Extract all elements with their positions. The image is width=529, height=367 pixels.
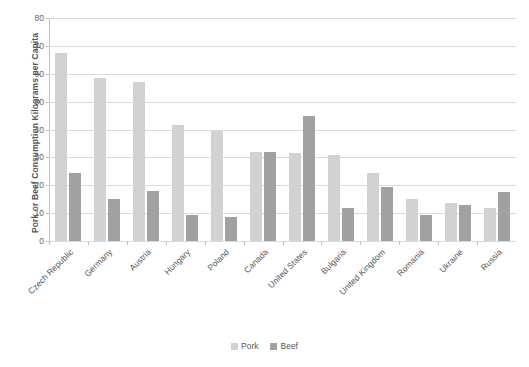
bar-beef[interactable] [225,217,237,241]
bar-beef[interactable] [303,116,315,241]
x-axis-label: Russia [478,247,503,272]
y-tick-label: 40 [35,125,44,135]
x-axis-label: Poland [205,247,231,273]
y-tick-label: 20 [35,180,44,190]
x-axis-label-cell: Russia [477,245,516,335]
bar-beef[interactable] [186,215,198,241]
y-tick-label: 50 [35,97,44,107]
x-axis-label: Bulgaria [319,247,348,276]
legend-label: Pork [241,341,258,351]
bar-group [49,18,88,241]
bar-group [438,18,477,241]
x-axis-label-cell: Austria [127,245,166,335]
y-tick-label: 70 [35,41,44,51]
bar-group [166,18,205,241]
y-tick-label: 0 [39,236,44,246]
bar-group [477,18,516,241]
bar-pork[interactable] [133,82,145,241]
x-axis-label: Canada [242,247,270,275]
x-axis-label-cell: Czech Republic [49,245,88,335]
x-axis-label-cell: Poland [205,245,244,335]
bar-groups [49,18,516,241]
bar-beef[interactable] [147,191,159,241]
bar-beef[interactable] [69,173,81,241]
legend-item-pork[interactable]: Pork [231,341,258,351]
bar-group [244,18,283,241]
legend-label: Beef [280,341,298,351]
x-axis-category-labels: Czech RepublicGermanyAustriaHungaryPolan… [49,245,516,335]
bar-pork[interactable] [367,173,379,241]
x-axis-label: Czech Republic [26,247,75,296]
bar-pork[interactable] [211,131,223,241]
x-axis-label: Ukraine [437,247,465,275]
y-tick-label: 80 [35,13,44,23]
x-axis-label-cell: Hungary [166,245,205,335]
x-axis-label-cell: United Kingdom [360,245,399,335]
bar-group [321,18,360,241]
bar-beef[interactable] [420,215,432,241]
bar-chart: Pork or Beef Consumption Kilograms per C… [0,0,529,367]
bar-beef[interactable] [264,152,276,241]
bar-beef[interactable] [108,199,120,241]
legend-item-beef[interactable]: Beef [270,341,298,351]
bar-group [399,18,438,241]
bar-group [88,18,127,241]
bar-pork[interactable] [94,78,106,241]
bar-pork[interactable] [250,152,262,241]
bar-group [127,18,166,241]
x-axis-label-cell: Germany [88,245,127,335]
bar-beef[interactable] [459,205,471,241]
x-axis-label: Hungary [162,247,192,277]
bar-beef[interactable] [498,192,510,241]
bar-group [283,18,322,241]
bar-pork[interactable] [289,153,301,241]
bar-pork[interactable] [484,208,496,241]
plot-area: 01020304050607080 [49,18,516,241]
bar-beef[interactable] [342,208,354,241]
x-axis-label-cell: Ukraine [438,245,477,335]
bar-pork[interactable] [406,199,418,241]
x-axis-label-cell: Canada [244,245,283,335]
x-axis-label-cell: United States [283,245,322,335]
legend-swatch-icon [270,343,277,350]
x-axis-label: Romania [395,247,426,278]
y-tick-label: 30 [35,152,44,162]
bar-group [360,18,399,241]
x-axis-label: Germany [83,247,115,279]
x-axis-label: Austria [128,247,154,273]
legend-swatch-icon [231,343,238,350]
chart-legend: PorkBeef [0,341,529,351]
y-tick-label: 60 [35,69,44,79]
bar-pork[interactable] [445,203,457,241]
bar-group [205,18,244,241]
x-axis-label-cell: Romania [399,245,438,335]
y-tick-label: 10 [35,208,44,218]
bar-pork[interactable] [172,125,184,241]
bar-beef[interactable] [381,187,393,241]
bar-pork[interactable] [328,155,340,241]
bar-pork[interactable] [55,53,67,241]
